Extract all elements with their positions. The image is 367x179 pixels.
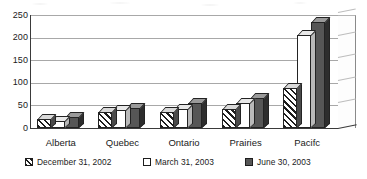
bar-group-ontario [153, 12, 215, 128]
bar-group-alberta [30, 12, 92, 128]
bar-groups [30, 12, 338, 128]
x-axis-label-prairies: Prairies [215, 138, 277, 148]
chart-legend: December 31, 2002March 31, 2003June 30, … [25, 156, 345, 170]
legend-label-3: June 30, 2003 [257, 158, 311, 167]
legend-swatch-gray-icon [245, 158, 253, 166]
y-axis-tick-150: 150 [2, 56, 28, 65]
bar-front-face [283, 88, 297, 128]
x-axis-label-pacifc: Pacifc [276, 138, 338, 148]
y-axis-tick-250: 250 [2, 11, 28, 20]
bar-quebec-series-1 [98, 112, 112, 128]
y-axis-tick-200: 200 [2, 33, 28, 42]
bar-side-face [311, 31, 316, 128]
gridline-depth-250 [338, 8, 356, 13]
legend-label-1: December 31, 2002 [37, 158, 111, 167]
legend-label-2: March 31, 2003 [155, 158, 214, 167]
bar-alberta-series-1 [37, 119, 51, 128]
bar-group-pacifc [276, 12, 338, 128]
bar-prairies-series-1 [222, 109, 236, 128]
y-axis-line [30, 15, 31, 128]
x-axis-line [30, 128, 338, 129]
bar-chart: 250200150100500 AlbertaQuebecOntarioPrai… [0, 0, 367, 179]
bar-side-face [297, 84, 302, 128]
y-axis-tick-100: 100 [2, 78, 28, 87]
bar-front-face [98, 112, 112, 128]
bar-front-face [222, 109, 236, 128]
legend-item-1[interactable]: December 31, 2002 [25, 156, 111, 168]
bar-group-prairies [215, 12, 277, 128]
x-axis-label-ontario: Ontario [153, 138, 215, 148]
bar-ontario-series-1 [160, 112, 174, 128]
legend-item-3[interactable]: June 30, 2003 [245, 156, 311, 168]
y-axis-tick-0: 0 [2, 124, 28, 133]
legend-item-2[interactable]: March 31, 2003 [143, 156, 214, 168]
bar-front-face [37, 119, 51, 128]
bar-pacifc-series-1 [283, 88, 297, 128]
bar-group-quebec [92, 12, 154, 128]
legend-swatch-white-icon [143, 158, 151, 166]
scan-artifact [0, 0, 367, 10]
plot-area [30, 12, 360, 132]
bar-front-face [160, 112, 174, 128]
legend-swatch-hatch-icon [25, 158, 33, 166]
bar-side-face [325, 17, 330, 128]
x-axis-label-alberta: Alberta [30, 138, 92, 148]
x-axis-label-quebec: Quebec [92, 138, 154, 148]
y-axis-tick-50: 50 [2, 101, 28, 110]
